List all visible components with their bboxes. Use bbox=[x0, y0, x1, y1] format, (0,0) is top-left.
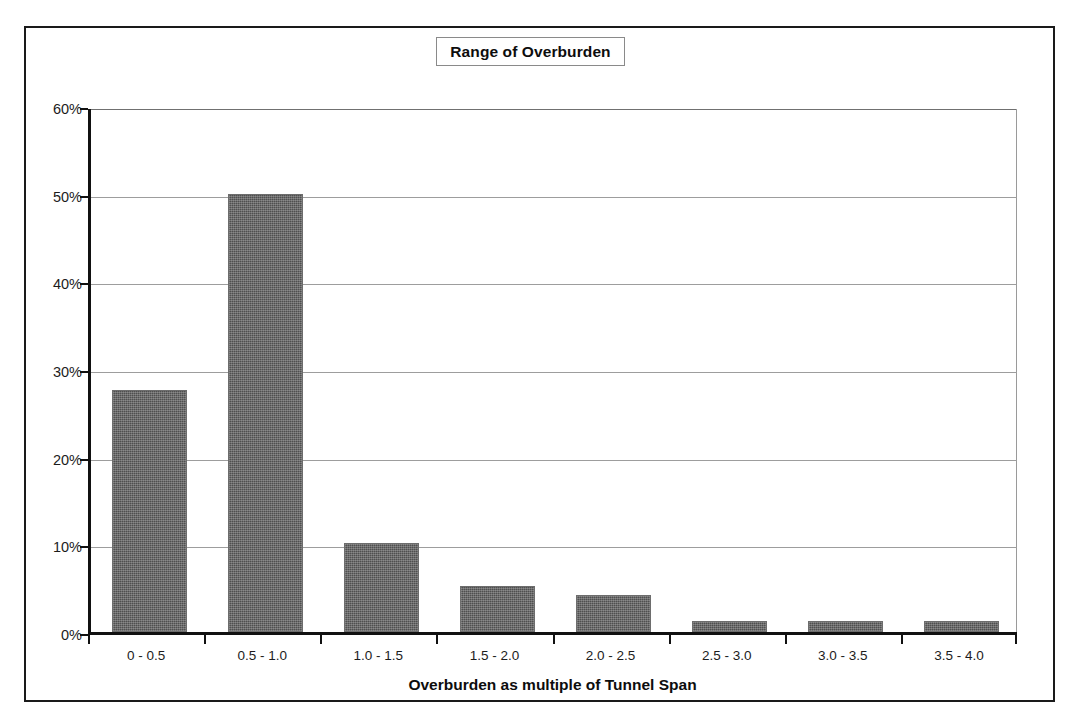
x-axis-tick-mark bbox=[669, 635, 671, 644]
x-axis-tick-mark bbox=[320, 635, 322, 644]
x-axis-tick-label: 0.5 - 1.0 bbox=[237, 648, 287, 663]
x-axis-tick-mark bbox=[901, 635, 903, 644]
x-axis-tick-marks bbox=[88, 635, 1017, 645]
y-axis-tick-mark bbox=[80, 459, 88, 461]
chart-title-box: Range of Overburden bbox=[436, 37, 625, 66]
x-axis-tick-mark bbox=[1015, 635, 1017, 644]
y-axis-tick-mark bbox=[80, 108, 88, 110]
y-axis-tick-label: 60% bbox=[53, 101, 82, 117]
bar bbox=[228, 194, 303, 632]
y-axis-tick-mark bbox=[80, 634, 88, 636]
bar bbox=[344, 543, 419, 632]
chart-title: Range of Overburden bbox=[450, 43, 610, 61]
plot-right-border bbox=[1016, 109, 1017, 632]
y-axis-tick-mark bbox=[80, 371, 88, 373]
x-axis-labels: 0 - 0.50.5 - 1.01.0 - 1.51.5 - 2.02.0 - … bbox=[88, 648, 1017, 672]
y-axis-tick-label: 50% bbox=[53, 189, 82, 205]
x-axis-tick-label: 1.5 - 2.0 bbox=[470, 648, 520, 663]
x-axis-tick-mark bbox=[785, 635, 787, 644]
x-axis-tick-mark bbox=[553, 635, 555, 644]
bar bbox=[576, 595, 651, 632]
y-axis-labels: 0%10%20%30%40%50%60% bbox=[26, 109, 82, 635]
x-axis-tick-label: 0 - 0.5 bbox=[127, 648, 165, 663]
y-axis-tick-label: 0% bbox=[61, 627, 82, 643]
x-axis-tick-mark bbox=[204, 635, 206, 644]
x-axis-tick-mark bbox=[88, 635, 90, 644]
y-axis-tick-label: 20% bbox=[53, 452, 82, 468]
plot-area bbox=[88, 109, 1017, 635]
x-axis-tick-label: 3.5 - 4.0 bbox=[934, 648, 984, 663]
bar bbox=[460, 586, 535, 632]
y-axis-tick-label: 30% bbox=[53, 364, 82, 380]
bar bbox=[112, 390, 187, 632]
y-axis-tick-label: 10% bbox=[53, 539, 82, 555]
y-axis-tick-label: 40% bbox=[53, 276, 82, 292]
y-axis-tick-mark bbox=[80, 283, 88, 285]
bar bbox=[924, 621, 999, 632]
plot-top-border bbox=[91, 109, 1017, 110]
x-axis-tick-mark bbox=[436, 635, 438, 644]
bar bbox=[808, 621, 883, 632]
x-axis-tick-label: 3.0 - 3.5 bbox=[818, 648, 868, 663]
x-axis-tick-label: 2.0 - 2.5 bbox=[586, 648, 636, 663]
bar bbox=[692, 621, 767, 632]
chart-page-frame: Range of Overburden 0%10%20%30%40%50%60%… bbox=[24, 26, 1055, 702]
y-axis-tick-mark bbox=[80, 196, 88, 198]
x-axis-title: Overburden as multiple of Tunnel Span bbox=[88, 676, 1017, 694]
y-axis-tick-mark bbox=[80, 546, 88, 548]
x-axis-tick-label: 1.0 - 1.5 bbox=[354, 648, 404, 663]
x-axis-tick-label: 2.5 - 3.0 bbox=[702, 648, 752, 663]
